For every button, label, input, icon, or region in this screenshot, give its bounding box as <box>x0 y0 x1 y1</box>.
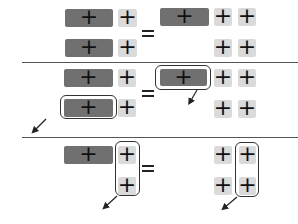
pointer-arrows <box>0 0 298 224</box>
arrow-icon <box>224 197 237 208</box>
arrow-icon <box>190 90 197 102</box>
arrow-icon <box>34 119 46 131</box>
block-matrix-diagram: + + + + + + + + + + + + + + + + + + + + … <box>0 0 298 224</box>
arrow-icon <box>105 196 117 207</box>
